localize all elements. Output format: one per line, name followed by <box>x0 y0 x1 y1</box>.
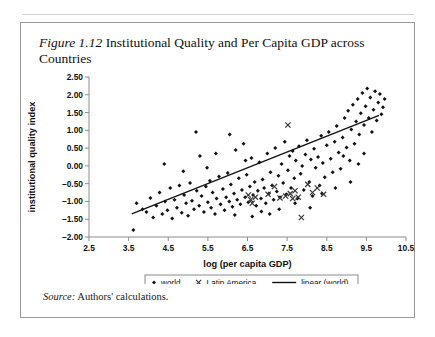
svg-text:log (per capita GDP): log (per capita GDP) <box>203 259 291 269</box>
header-rule <box>22 14 414 15</box>
svg-text:institutional quality index: institutional quality index <box>27 101 37 213</box>
source-note: Source: Authors' calculations. <box>43 291 168 302</box>
svg-text:0.50: 0.50 <box>67 143 84 153</box>
chart-plot-area: institutional quality index 2.53.54.55.5… <box>21 69 416 284</box>
y-axis-title-group: institutional quality index <box>27 101 37 213</box>
scatter-chart: institutional quality index 2.53.54.55.5… <box>21 69 416 284</box>
svg-text:–1.00: –1.00 <box>62 196 83 206</box>
svg-text:2.50: 2.50 <box>67 72 84 82</box>
svg-text:2.00: 2.00 <box>67 90 84 100</box>
svg-text:1.00: 1.00 <box>67 125 84 135</box>
svg-text:linear (world): linear (world) <box>301 279 349 285</box>
figure-number: Figure 1.12 <box>39 35 102 50</box>
source-text: Authors' calculations. <box>77 291 168 302</box>
trend-line-linear-world <box>132 115 379 213</box>
svg-text:7.5: 7.5 <box>281 243 293 253</box>
running-head <box>22 0 402 12</box>
axis-lines <box>89 77 406 237</box>
svg-text:5.5: 5.5 <box>202 243 214 253</box>
svg-text:3.5: 3.5 <box>123 243 135 253</box>
figure-box: Figure 1.12 Institutional Quality and Pe… <box>20 22 415 318</box>
x-axis-title-group: log (per capita GDP) <box>203 259 291 269</box>
svg-text:9.5: 9.5 <box>361 243 373 253</box>
svg-text:2.5: 2.5 <box>83 243 95 253</box>
svg-text:4.5: 4.5 <box>162 243 174 253</box>
svg-text:8.5: 8.5 <box>321 243 333 253</box>
svg-text:Latin America: Latin America <box>207 279 257 285</box>
svg-text:6.5: 6.5 <box>242 243 254 253</box>
svg-text:–2.00: –2.00 <box>62 232 83 242</box>
svg-text:–1.50: –1.50 <box>62 214 83 224</box>
figure-caption: Figure 1.12 Institutional Quality and Pe… <box>39 35 389 67</box>
x-axis-ticks: 2.53.54.55.56.57.58.59.510.5 <box>83 237 414 253</box>
chart-legend: worldLatin Americalinear (world) <box>145 275 358 284</box>
svg-text:10.5: 10.5 <box>398 243 415 253</box>
svg-text:0.00: 0.00 <box>67 161 84 171</box>
source-label: Source: <box>43 291 75 302</box>
series-world-points <box>131 86 386 232</box>
svg-text:world: world <box>160 279 181 285</box>
y-axis-ticks: 2.502.001.501.000.500.00–0.50–1.00–1.50–… <box>62 72 89 242</box>
svg-text:–0.50: –0.50 <box>62 179 83 189</box>
svg-text:1.50: 1.50 <box>67 108 84 118</box>
